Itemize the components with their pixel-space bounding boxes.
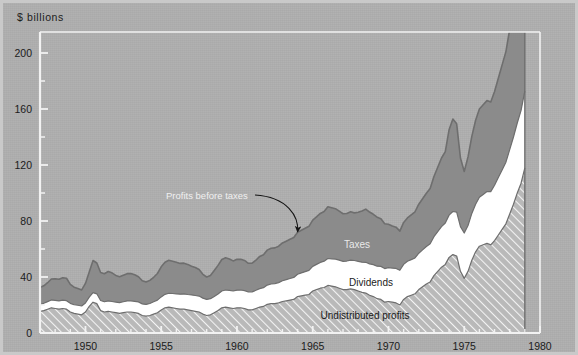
band-label-dividends: Dividends	[349, 277, 393, 288]
band-label-taxes: Taxes	[344, 239, 370, 250]
band-label-undistributed-profits: Undistributed profits	[321, 310, 410, 321]
x-tick-label: 1975	[453, 340, 477, 352]
x-tick-label: 1950	[74, 340, 98, 352]
x-tick-label: 1980	[528, 340, 552, 352]
area-series-group	[40, 3, 525, 333]
y-tick-label: 200	[14, 47, 32, 59]
x-tick-label: 1960	[225, 340, 249, 352]
y-tick-label: 120	[14, 159, 32, 171]
y-tick-label: 40	[20, 271, 32, 283]
callout-annotation: Profits before taxes	[166, 190, 298, 232]
x-tick-label: 1965	[301, 340, 325, 352]
x-tick-label: 1955	[150, 340, 174, 352]
y-tick-label: 80	[20, 215, 32, 227]
stacked-area-chart: 0408012016020019501955196019651970197519…	[3, 3, 578, 355]
callout-label: Profits before taxes	[166, 190, 248, 201]
y-tick-label: 0	[26, 327, 32, 339]
x-tick-label: 1970	[377, 340, 401, 352]
chart-figure: $ billions 04080120160200195019551960196…	[0, 0, 578, 355]
y-tick-label: 160	[14, 103, 32, 115]
